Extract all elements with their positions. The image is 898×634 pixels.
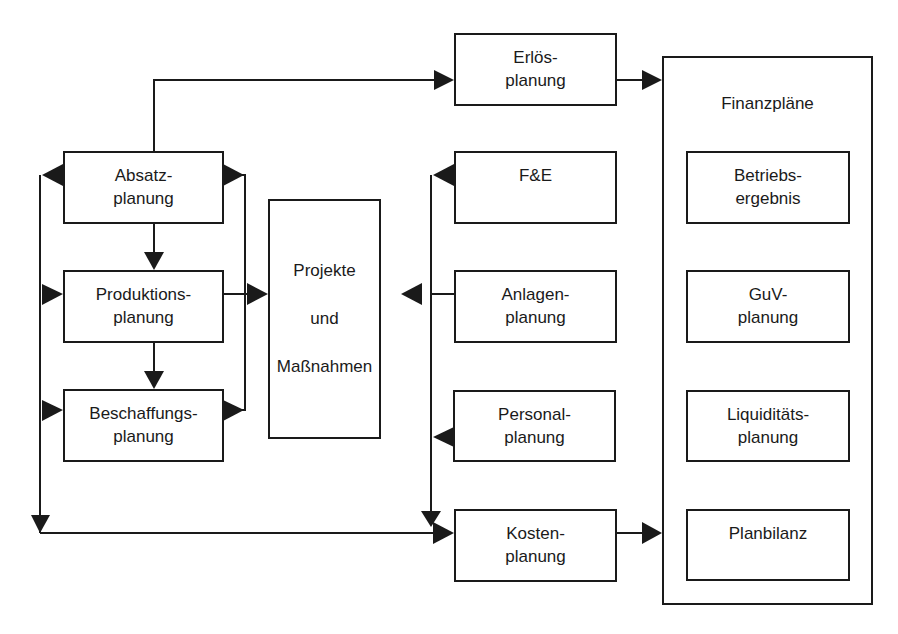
node-anlagenplanung: Anlagen- planung [454,270,617,343]
node-betriebsergebnis: Betriebs- ergebnis [686,151,850,224]
arrow-head-right [434,70,454,90]
node-fue: F&E [454,151,617,224]
node-label-line1: F&E [519,164,552,187]
node-label-line1: Projekte [293,247,355,295]
arrow-head-left [433,427,454,447]
node-kostenplanung: Kosten- planung [454,509,617,582]
node-label-line2: planung [505,306,566,329]
node-label-line1: Personal- [498,403,571,426]
node-label-line2: planung [505,545,566,568]
node-personalplanung: Personal- planung [453,390,616,462]
arrow-head-right [247,283,268,305]
node-label-line2: planung [113,187,174,210]
arrow-head-right [223,400,244,421]
node-label-line2: und [310,295,338,343]
group-title: Finanzpläne [662,94,873,114]
node-guv-planung: GuV- planung [686,270,850,343]
arrow-head-left [433,164,454,186]
node-label-line2: ergebnis [735,187,800,210]
arrow-head-down [144,371,164,389]
arrow-head-right [42,284,63,305]
arrow-head-right [223,164,244,186]
arrow-head-down [421,511,441,527]
node-label-line1: Liquiditäts- [727,403,809,426]
node-projekte-und-massnahmen: Projekte und Maßnahmen [268,199,381,439]
node-absatzplanung: Absatz- planung [63,151,224,224]
node-label-line1: Beschaffungs- [89,402,197,425]
arrow-head-right [433,522,454,544]
node-planbilanz: Planbilanz [686,509,850,581]
node-label-line3: Maßnahmen [277,343,372,391]
arrow-head-left [42,164,63,186]
node-label-line1: Absatz- [115,164,173,187]
node-label-line2: planung [738,426,799,449]
node-erloesplanung: Erlös- planung [454,33,617,106]
node-label-line2: planung [113,425,174,448]
node-label-line1: Anlagen- [501,283,569,306]
arrow-head-right [642,70,662,90]
node-label-line2: planung [505,69,566,92]
node-produktionsplanung: Produktions- planung [63,270,224,343]
edge-absatz-erloes [154,80,434,151]
node-liquiditaetsplanung: Liquiditäts- planung [686,390,850,462]
node-label-line2: planung [113,306,174,329]
node-label-line2: planung [504,426,565,449]
node-label-line1: Produktions- [96,283,191,306]
node-label-line1: Kosten- [506,522,565,545]
node-label-line1: Erlös- [513,46,557,69]
arrow-head-right [642,522,662,544]
arrow-head-down [31,515,50,533]
node-label-line1: Betriebs- [734,164,802,187]
node-label-line2: planung [738,306,799,329]
node-label-line1: GuV- [749,283,788,306]
node-label-line1: Planbilanz [729,522,807,545]
arrow-head-down [144,252,164,270]
arrow-head-left [401,283,422,305]
arrow-head-right [42,400,63,421]
right-bus-left-group [223,175,245,410]
node-beschaffungsplanung: Beschaffungs- planung [63,389,224,462]
